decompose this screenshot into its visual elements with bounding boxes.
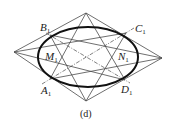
- label-m1: M1: [44, 50, 58, 64]
- label-n1: N1: [117, 50, 129, 64]
- geometry-diagram: B1 C1 A1 D1 M1 N1 (d): [0, 0, 176, 126]
- label-c1: C1: [135, 22, 146, 36]
- label-a1: A1: [40, 84, 52, 98]
- label-b1: B1: [40, 21, 51, 35]
- figure-caption: (d): [80, 108, 92, 120]
- label-d1: D1: [120, 83, 133, 97]
